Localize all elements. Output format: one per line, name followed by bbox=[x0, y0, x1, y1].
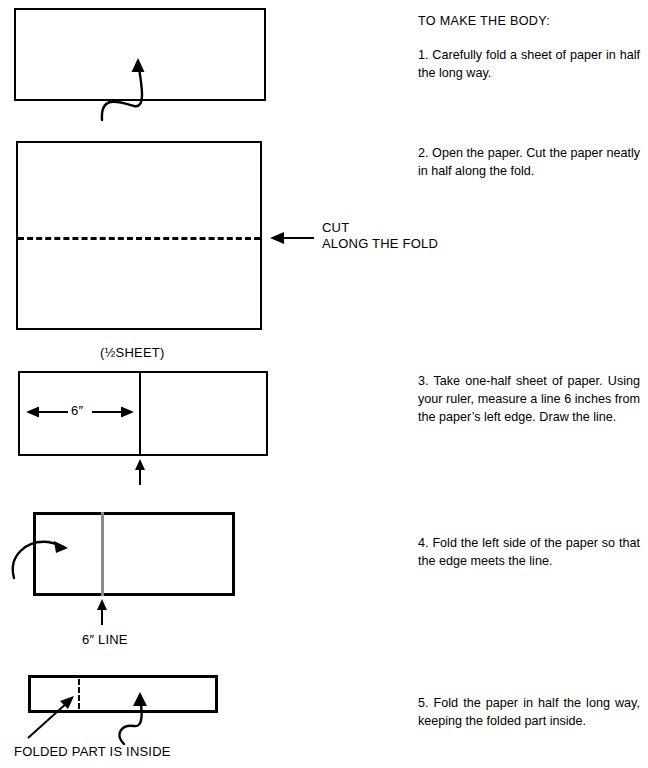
instruction-step-4-text: 4. Fold the left side of the paper so th… bbox=[418, 535, 640, 571]
figure-5-hidden-fold-dashed-line bbox=[78, 679, 80, 709]
instruction-step-1: 1. Carefully fold a sheet of paper in ha… bbox=[418, 47, 640, 83]
figure-3-drawn-6in-line bbox=[139, 371, 141, 456]
instructions-panel: TO MAKE THE BODY: 1. Carefully fold a sh… bbox=[418, 0, 640, 768]
six-inch-dimension-label: 6″ bbox=[71, 403, 83, 419]
cut-direction-arrow-icon bbox=[268, 228, 316, 248]
figure-2-sheet bbox=[16, 141, 262, 330]
instruction-step-3: 3. Take one-half sheet of paper. Using y… bbox=[418, 373, 640, 427]
instruction-step-5-text: 5. Fold the paper in half the long way, … bbox=[418, 695, 640, 731]
figure-1-fold-arrow-icon bbox=[90, 48, 170, 126]
instruction-step-1-text: 1. Carefully fold a sheet of paper in ha… bbox=[418, 47, 640, 83]
figure-2-fold-dashed-line bbox=[18, 237, 260, 240]
half-sheet-label: (½SHEET) bbox=[100, 345, 164, 361]
figure-4-line-pointer-arrow-icon bbox=[94, 598, 110, 626]
figure-4-fold-direction-arrow-icon bbox=[8, 528, 70, 584]
six-inch-line-label: 6″ LINE bbox=[82, 632, 128, 648]
figure-5-inside-pointer-arrow-icon bbox=[24, 690, 78, 740]
folded-part-inside-label: FOLDED PART IS INSIDE bbox=[14, 744, 171, 760]
instruction-step-3-text: 3. Take one-half sheet of paper. Using y… bbox=[418, 373, 640, 427]
instruction-step-2-text: 2. Open the paper. Cut the paper neatly … bbox=[418, 145, 640, 181]
instructions-heading: TO MAKE THE BODY: bbox=[418, 13, 640, 31]
instruction-step-5: 5. Fold the paper in half the long way, … bbox=[418, 695, 640, 731]
figure-3-line-pointer-arrow-icon bbox=[132, 458, 148, 486]
cut-label-line-1: CUT bbox=[322, 220, 349, 235]
instruction-step-4: 4. Fold the left side of the paper so th… bbox=[418, 535, 640, 571]
figure-4-6in-fold-line bbox=[101, 512, 104, 596]
instructions-heading-text: TO MAKE THE BODY: bbox=[418, 13, 640, 31]
figure-5-fold-direction-arrow-icon bbox=[108, 690, 164, 748]
instruction-step-2: 2. Open the paper. Cut the paper neatly … bbox=[418, 145, 640, 181]
figures-panel: CUT ALONG THE FOLD (½SHEET) 6″ bbox=[0, 0, 400, 768]
